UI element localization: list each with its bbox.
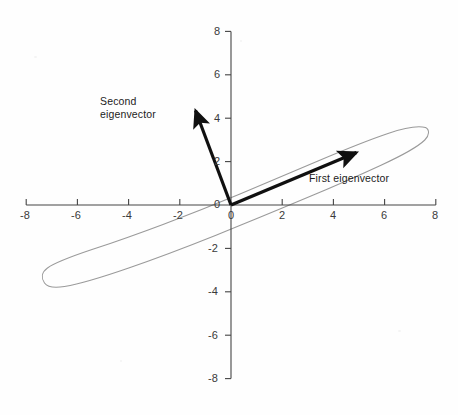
scan-speck	[240, 40, 242, 42]
x-tick-label-4: 4	[330, 209, 336, 221]
plot-background	[0, 0, 458, 415]
x-tick-label-8: 8	[432, 209, 438, 221]
y-tick-label-8: 8	[214, 25, 220, 37]
y-tick-label--6: -6	[208, 329, 218, 341]
x-tick-label--8: -8	[20, 209, 30, 221]
y-tick-label-2: 2	[214, 155, 220, 167]
x-tick-label--2: -2	[173, 209, 183, 221]
x-tick-label--6: -6	[71, 209, 81, 221]
y-tick-label-0: 0	[214, 198, 220, 210]
plot-canvas	[0, 0, 458, 415]
scan-speck	[34, 56, 37, 58]
y-tick-label-4: 4	[214, 112, 220, 124]
x-tick-label-0: 0	[228, 209, 234, 221]
x-tick-label-6: 6	[381, 209, 387, 221]
scan-speck	[120, 360, 122, 362]
scan-speck	[398, 330, 401, 332]
x-tick-label-2: 2	[279, 209, 285, 221]
y-tick-label--2: -2	[208, 242, 218, 254]
second-eigenvector-label: Second eigenvector	[100, 95, 156, 121]
eigenvector-figure: -8 -6 -4 -2 2 4 6 8 8 6 4 2 0 -2 -4 -6 -…	[0, 0, 458, 415]
y-tick-label--8: -8	[208, 372, 218, 384]
y-tick-label--4: -4	[208, 285, 218, 297]
y-tick-label-6: 6	[214, 68, 220, 80]
first-eigenvector-label: First eigenvector	[309, 172, 389, 185]
x-tick-label--4: -4	[122, 209, 132, 221]
